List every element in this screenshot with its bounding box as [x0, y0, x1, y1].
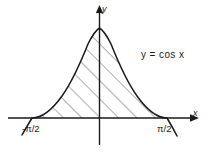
- tick-label-right: π/2: [157, 123, 171, 134]
- y-axis-label: y: [101, 4, 107, 14]
- figure-canvas: x y -π/2 π/2 y = cos x: [0, 0, 218, 153]
- x-axis-label: x: [192, 108, 198, 118]
- equation-label: y = cos x: [141, 49, 184, 60]
- cosine-area-figure: x y -π/2 π/2 y = cos x: [0, 0, 218, 153]
- tick-label-left: -π/2: [22, 123, 40, 134]
